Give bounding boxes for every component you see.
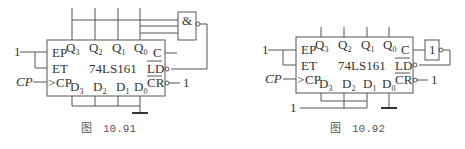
figure-caption-number: 10.91 [103,123,136,135]
clock-label: CP [16,74,33,89]
data-high-label: 1 [290,100,297,115]
pin-c: C [401,42,410,57]
clock-label: CP [265,71,282,86]
inversion-bubble-icon [196,22,200,26]
figure-10-91: & 1 CP EP ET > CP Q3 Q2 Q1 Q0 74LS161 D3… [14,8,207,135]
pin-cr: CR [147,75,165,90]
pin-ep: EP [301,42,316,57]
inversion-bubble-icon [439,48,443,52]
figure-caption-prefix: 图 [330,122,341,135]
circuit-diagrams: & 1 CP EP ET > CP Q3 Q2 Q1 Q0 74LS161 D3… [0,0,465,149]
wire-et [35,52,47,68]
chip-name: 74LS161 [338,58,386,73]
pin-et: ET [301,58,317,73]
pin-cr: CR [395,72,413,87]
nand-symbol: & [182,13,192,28]
pin-ld: LD [147,61,164,76]
pin-ep: EP [52,45,67,60]
figure-10-92: 1 CP EP ET > CP Q3 Q2 Q1 Q0 74LS161 D3 D… [262,27,450,135]
cr-bubble-icon [165,81,169,85]
pin-et: ET [52,61,68,76]
input-1-label: 1 [262,42,269,57]
cr-bubble-icon [413,78,417,82]
input-1-label: 1 [14,44,21,59]
not-symbol: 1 [429,42,436,57]
cr-input-label: 1 [183,75,190,90]
ld-bubble-icon [413,63,417,67]
pin-ld: LD [395,58,412,73]
chip-name: 74LS161 [89,61,137,76]
wire-et [283,50,296,65]
clock-triangle-icon: > [48,75,55,90]
clock-triangle-icon: > [297,72,304,87]
pin-c: C [153,45,162,60]
figure-caption-prefix: 图 [81,122,92,135]
figure-caption-number: 10.92 [352,123,385,135]
cr-input-label: 1 [431,72,438,87]
ld-bubble-icon [165,67,169,71]
